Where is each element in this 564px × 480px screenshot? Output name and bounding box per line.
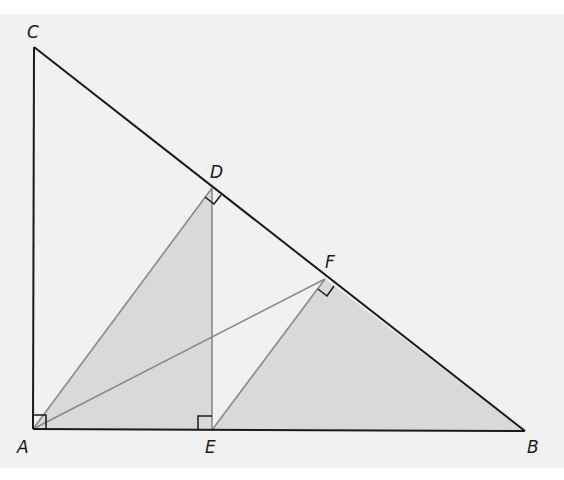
shaded-triangle-efb — [212, 279, 525, 431]
label-e: E — [205, 437, 216, 457]
label-f: F — [325, 252, 335, 272]
label-d: D — [210, 162, 223, 182]
geometry-diagram: C D F A E B — [0, 0, 564, 480]
label-b: B — [527, 437, 539, 457]
label-c: C — [27, 22, 39, 42]
segment-ac — [33, 47, 34, 429]
label-a: A — [16, 437, 29, 457]
